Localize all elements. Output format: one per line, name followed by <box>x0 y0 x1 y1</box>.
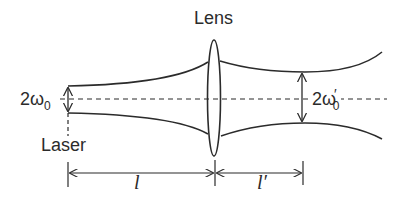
distance-l-prime-label: l′ <box>257 172 267 192</box>
output-waist-label: 2ω′0 <box>310 90 341 108</box>
input-beam-upper-edge <box>68 62 208 86</box>
laser-label: Laser <box>41 136 86 154</box>
lens-label: Lens <box>194 9 233 27</box>
output-beam-upper-edge <box>220 52 382 72</box>
input-waist-label: 2ω0 <box>20 90 53 108</box>
beam-optics-drawing <box>0 0 407 203</box>
lens-shape <box>208 40 221 156</box>
output-waist-subscript: 0 <box>333 99 340 113</box>
input-waist-symbol: 2ω <box>20 89 44 109</box>
input-beam-lower-edge <box>68 113 208 134</box>
gaussian-beam-diagram: Lens Laser 2ω0 2ω′0 l l′ <box>0 0 407 203</box>
output-beam-lower-edge <box>221 123 382 139</box>
input-waist-subscript: 0 <box>44 99 51 113</box>
distance-l-label: l <box>134 172 140 192</box>
